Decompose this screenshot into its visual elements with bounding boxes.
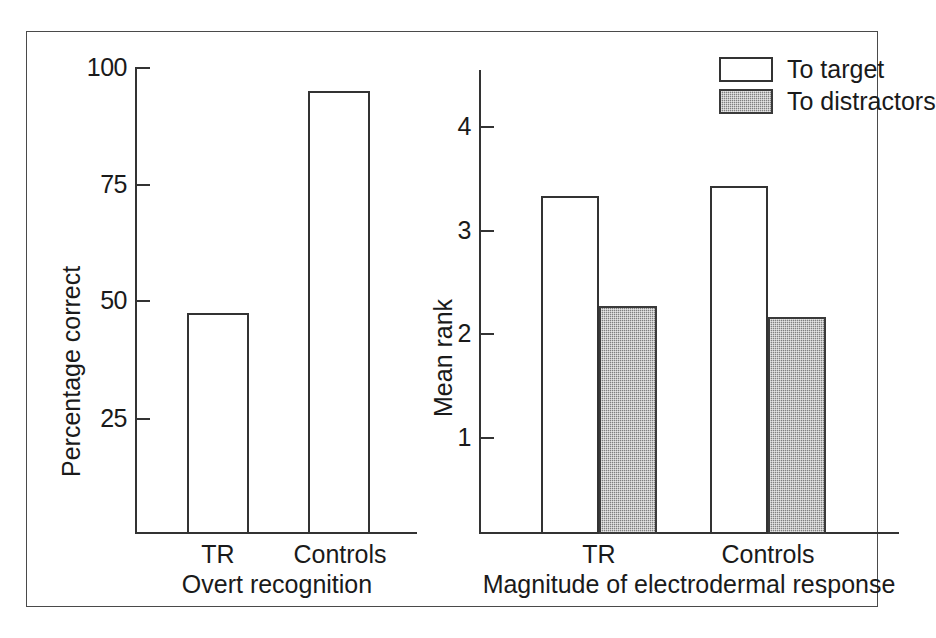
chart-legend: To target To distractors	[719, 53, 936, 117]
right-category-label-controls: Controls	[707, 540, 829, 568]
left-y-tick-25	[137, 418, 150, 420]
legend-label-to-distractors: To distractors	[787, 89, 936, 114]
chart-panel-electrodermal-response: 4 3 2 1 Mean rank TR Controls Magnitude …	[457, 32, 931, 606]
left-y-axis-title: Percentage correct	[59, 266, 84, 477]
left-category-label-tr: TR	[178, 540, 258, 568]
legend-swatch-hatched-icon	[719, 89, 773, 114]
left-x-axis-title: Overt recognition	[132, 570, 422, 598]
right-category-label-tr: TR	[559, 540, 639, 568]
right-bar-tr-to-target	[541, 196, 599, 534]
right-bar-controls-to-distractors	[768, 317, 826, 534]
chart-panel-overt-recognition: 100 75 50 25 Percentage correct TR Contr…	[27, 32, 457, 606]
right-y-tick-2	[481, 333, 494, 335]
left-y-tick-75	[137, 184, 150, 186]
legend-item-to-distractors: To distractors	[719, 85, 936, 117]
right-y-tick-label-1: 1	[439, 425, 471, 450]
left-x-axis-line	[135, 532, 417, 534]
right-y-tick-label-3: 3	[439, 218, 471, 243]
right-y-tick-4	[481, 126, 494, 128]
legend-label-to-target: To target	[787, 57, 884, 82]
left-y-tick-100	[137, 67, 150, 69]
legend-swatch-open-icon	[719, 57, 773, 82]
right-x-axis-title: Magnitude of electrodermal response	[479, 570, 899, 598]
right-y-axis-line	[479, 70, 481, 534]
right-bar-tr-to-distractors	[599, 306, 657, 534]
right-y-tick-label-4: 4	[439, 114, 471, 139]
left-bar-controls-percentage	[308, 91, 370, 534]
left-y-tick-50	[137, 300, 150, 302]
figure-frame-border: 100 75 50 25 Percentage correct TR Contr…	[26, 31, 878, 607]
right-y-tick-1	[481, 437, 494, 439]
legend-item-to-target: To target	[719, 53, 936, 85]
left-bar-tr-percentage	[187, 313, 249, 534]
right-bar-controls-to-target	[710, 186, 768, 534]
left-category-label-controls: Controls	[279, 540, 401, 568]
right-y-tick-3	[481, 230, 494, 232]
left-y-tick-label-100: 100	[65, 55, 127, 80]
left-y-tick-label-75: 75	[65, 172, 127, 197]
right-y-axis-title: Mean rank	[431, 299, 456, 417]
